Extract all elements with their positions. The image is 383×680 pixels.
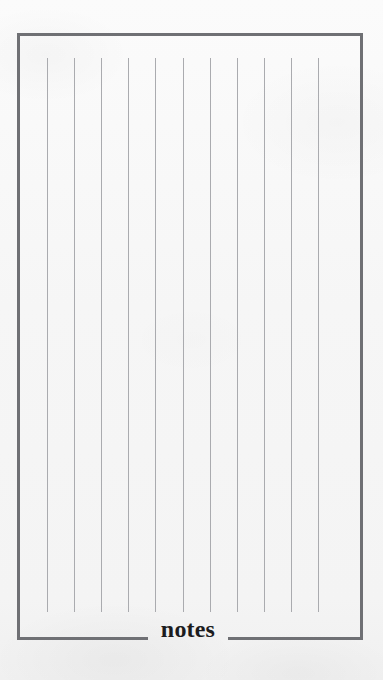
ruling-line <box>264 58 265 612</box>
ruling-line <box>128 58 129 612</box>
card-border-bottom-right <box>228 637 363 640</box>
ruling-line <box>47 58 48 612</box>
ruling-line <box>183 58 184 612</box>
ruling-line <box>237 58 238 612</box>
note-card[interactable]: notes <box>17 33 363 640</box>
card-border-bottom-left <box>17 637 148 640</box>
card-border-top <box>17 33 363 36</box>
ruling-line <box>318 58 319 612</box>
ruling-line <box>74 58 75 612</box>
ruling-line <box>291 58 292 612</box>
ruling-line <box>210 58 211 612</box>
notes-page: notes <box>0 0 383 680</box>
notes-caption: notes <box>148 616 228 642</box>
ruling-line <box>101 58 102 612</box>
ruling-lines <box>17 58 363 612</box>
ruling-line <box>155 58 156 612</box>
